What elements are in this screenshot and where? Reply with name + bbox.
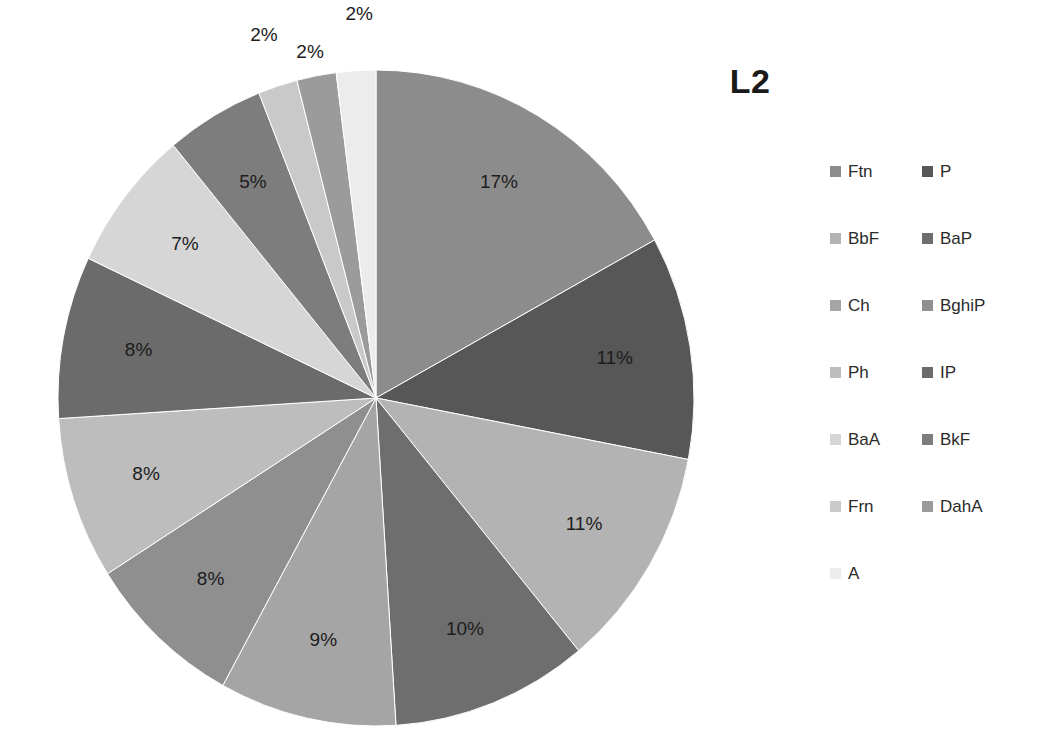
- pie-slice-label: 11%: [596, 347, 633, 368]
- pie-slice-label: 17%: [480, 171, 518, 192]
- legend-item[interactable]: DahA: [922, 495, 1032, 517]
- pie-plot-area: 17%11%11%10%9%8%8%8%7%5%2%2%2%: [0, 0, 760, 749]
- legend-item[interactable]: A: [830, 562, 922, 584]
- legend-swatch-icon: [830, 233, 841, 244]
- legend-item[interactable]: IP: [922, 361, 1032, 383]
- legend-swatch-icon: [830, 166, 841, 177]
- legend-item[interactable]: BghiP: [922, 294, 1032, 316]
- legend-swatch-icon: [830, 501, 841, 512]
- legend-swatch-icon: [922, 501, 933, 512]
- legend-item[interactable]: BaA: [830, 428, 922, 450]
- legend-swatch-icon: [922, 233, 933, 244]
- legend-swatch-icon: [830, 367, 841, 378]
- chart-legend: FtnPBbFBaPChBghiPPhIPBaABkFFrnDahAA: [830, 160, 1045, 629]
- legend-swatch-icon: [922, 300, 933, 311]
- pie-slice-label: 8%: [125, 339, 153, 360]
- pie-slice-label: 2%: [296, 41, 324, 62]
- pie-slice-label: 2%: [345, 3, 373, 24]
- legend-item-label: A: [848, 565, 859, 582]
- legend-item[interactable]: P: [922, 160, 1032, 182]
- legend-swatch-icon: [830, 300, 841, 311]
- legend-swatch-icon: [922, 434, 933, 445]
- legend-item-label: P: [940, 163, 951, 180]
- pie-slice-label: 9%: [310, 629, 338, 650]
- legend-item-label: BkF: [940, 431, 970, 448]
- legend-item-label: DahA: [940, 498, 983, 515]
- legend-item[interactable]: BkF: [922, 428, 1032, 450]
- legend-item[interactable]: Frn: [830, 495, 922, 517]
- pie-slice-label: 5%: [239, 171, 267, 192]
- pie-slice-label: 7%: [171, 233, 199, 254]
- legend-swatch-icon: [922, 367, 933, 378]
- legend-item-label: BbF: [848, 230, 879, 247]
- legend-item-label: BaP: [940, 230, 972, 247]
- legend-swatch-icon: [830, 568, 841, 579]
- legend-item-label: Ch: [848, 297, 870, 314]
- legend-item[interactable]: Ch: [830, 294, 922, 316]
- legend-item-label: BaA: [848, 431, 880, 448]
- legend-swatch-icon: [830, 434, 841, 445]
- pie-slice-group: [58, 70, 694, 726]
- legend-item-label: Frn: [848, 498, 874, 515]
- pie-slice-label: 10%: [446, 618, 484, 639]
- legend-item[interactable]: Ph: [830, 361, 922, 383]
- legend-item[interactable]: BbF: [830, 227, 922, 249]
- pie-chart-figure: L2 17%11%11%10%9%8%8%8%7%5%2%2%2% FtnPBb…: [0, 0, 1056, 749]
- legend-item-label: BghiP: [940, 297, 985, 314]
- pie-slice-label: 8%: [132, 463, 160, 484]
- pie-svg: 17%11%11%10%9%8%8%8%7%5%2%2%2%: [0, 0, 760, 749]
- legend-item[interactable]: BaP: [922, 227, 1032, 249]
- legend-swatch-icon: [922, 166, 933, 177]
- legend-item-label: Ph: [848, 364, 869, 381]
- legend-item-label: IP: [940, 364, 956, 381]
- legend-item-label: Ftn: [848, 163, 873, 180]
- pie-slice-label: 11%: [566, 513, 603, 534]
- legend-item[interactable]: Ftn: [830, 160, 922, 182]
- pie-slice-label: 2%: [250, 24, 278, 45]
- pie-slice-label: 8%: [197, 568, 225, 589]
